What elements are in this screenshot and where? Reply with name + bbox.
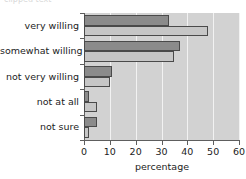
x-axis-title: percentage bbox=[84, 161, 240, 172]
y-axis-tick bbox=[80, 64, 84, 65]
x-axis-tick bbox=[162, 141, 163, 145]
y-axis-label: not at all bbox=[0, 97, 79, 107]
y-axis-labels: very willingsomewhat willingnot very wil… bbox=[0, 13, 246, 140]
x-axis-tick bbox=[187, 141, 188, 145]
y-axis-tick bbox=[80, 115, 84, 116]
y-axis-label: not sure bbox=[0, 122, 79, 132]
y-axis-label: somewhat willing bbox=[0, 46, 79, 56]
bar-chart: clipped text very willingsomewhat willin… bbox=[0, 0, 246, 179]
y-axis-label: very willing bbox=[0, 21, 79, 31]
x-axis-tick bbox=[239, 141, 240, 145]
x-axis-tick bbox=[213, 141, 214, 145]
x-axis-tick-label: 60 bbox=[224, 146, 246, 157]
x-axis-tick bbox=[136, 141, 137, 145]
y-axis-label: not very willing bbox=[0, 72, 79, 82]
x-axis-tick bbox=[84, 141, 85, 145]
y-axis-tick bbox=[80, 89, 84, 90]
clipped-caption: clipped text bbox=[4, 0, 154, 4]
x-axis-tick bbox=[110, 141, 111, 145]
y-axis-tick bbox=[80, 13, 84, 14]
y-axis-tick bbox=[80, 38, 84, 39]
